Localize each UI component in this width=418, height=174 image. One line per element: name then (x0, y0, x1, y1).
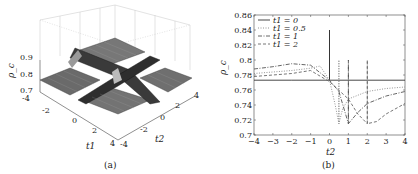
x-tick-label: 0 (327, 137, 332, 146)
y-axis-label: ρ_c (218, 60, 229, 76)
t1-tick: 2 (92, 126, 97, 135)
panel-b-caption: (b) (322, 160, 335, 170)
y-tick-label: 0.78 (234, 71, 252, 80)
z-axis-label: ρ_c (6, 63, 17, 79)
t1-tick: -4 (22, 94, 30, 103)
y-tick-label: 0.72 (234, 116, 252, 125)
z-tick: 0.9 (20, 53, 33, 62)
x-tick-label: 2 (365, 137, 370, 146)
t2-tick: 0 (160, 113, 165, 122)
x-tick-label: −3 (267, 137, 279, 146)
t2-tick: -4 (120, 140, 128, 149)
legend: t1 = 0t1 = 0.5t1 = 1t1 = 2 (258, 16, 306, 49)
x-axis-label: t2 (326, 147, 336, 157)
x-tick-label: −4 (248, 137, 260, 146)
figure: 0.9 0.8 0.7 ρ_c -4 -2 0 2 4 t1 -4 -2 0 2… (0, 0, 418, 174)
surface-mesh (40, 38, 192, 114)
t1-axis-label: t1 (86, 141, 95, 151)
t1-tick: 4 (110, 139, 115, 148)
panel-a-caption: (a) (104, 160, 116, 170)
t2-tick: 2 (175, 101, 180, 110)
t2-tick: 4 (194, 91, 199, 100)
panel-b-line-plot: 0.70.720.740.760.780.80.820.840.86 −4−3−… (218, 11, 408, 170)
y-tick-label: 0.82 (234, 41, 252, 50)
x-tick-label: −2 (286, 137, 298, 146)
z-tick: 0.8 (20, 70, 33, 79)
x-tick-label: −1 (305, 137, 317, 146)
x-tick-label: 4 (402, 137, 407, 146)
x-tick-label: 1 (346, 137, 351, 146)
t2-axis-label: t2 (155, 134, 165, 144)
y-tick-label: 0.76 (234, 86, 252, 95)
y-tick-label: 0.8 (239, 56, 252, 65)
y-tick-label: 0.74 (234, 101, 252, 110)
t2-tick: -2 (140, 125, 148, 134)
t1-tick: -2 (42, 106, 50, 115)
legend-label: t1 = 2 (273, 40, 298, 49)
y-tick-label: 0.84 (234, 26, 252, 35)
x-tick-label: 3 (384, 137, 389, 146)
t1-tick: 0 (72, 116, 77, 125)
panel-a-surface-plot: 0.9 0.8 0.7 ρ_c -4 -2 0 2 4 t1 -4 -2 0 2… (6, 5, 199, 170)
y-tick-label: 0.86 (234, 11, 252, 20)
